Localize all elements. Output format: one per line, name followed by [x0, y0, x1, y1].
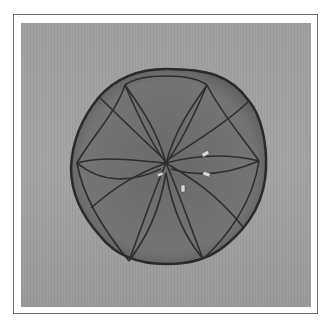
- mesh-device-illustration: [21, 23, 311, 307]
- device-photo: [21, 23, 311, 307]
